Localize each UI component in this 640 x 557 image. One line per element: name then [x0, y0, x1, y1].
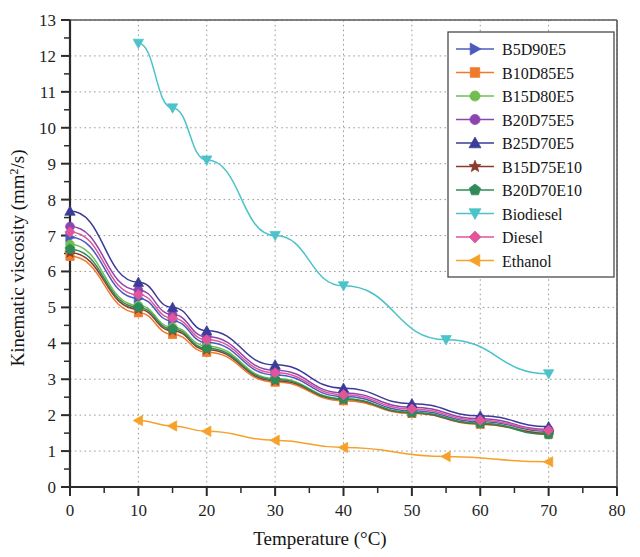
y-tick-label: 3 — [48, 370, 57, 389]
legend-item-label: Ethanol — [502, 253, 552, 270]
y-tick-label: 1 — [48, 442, 57, 461]
data-point-marker-triangle-up — [65, 206, 75, 215]
legend-item-label: B5D90E5 — [502, 41, 566, 58]
y-axis-title-tail: /s) — [7, 149, 29, 168]
data-point-marker-triangle-left — [167, 421, 176, 431]
legend-item-label: B10D85E5 — [502, 65, 574, 82]
y-tick-label: 6 — [48, 262, 57, 281]
y-axis-title-main: Kinematic viscosity (mm — [7, 174, 29, 366]
x-tick-label: 10 — [130, 501, 147, 520]
chart-legend: B5D90E5B10D85E5B15D80E5B20D75E5B25D70E5B… — [448, 32, 614, 277]
legend-item-label: B15D80E5 — [502, 88, 574, 105]
y-tick-label: 10 — [39, 119, 56, 138]
x-tick-label: 70 — [540, 501, 557, 520]
y-tick-label: 4 — [48, 334, 57, 353]
y-tick-label: 7 — [48, 227, 57, 246]
series-line — [70, 253, 549, 434]
data-point-marker-circle — [470, 91, 480, 101]
x-axis-title: Temperature (°C) — [253, 528, 386, 550]
x-tick-label: 80 — [609, 501, 626, 520]
x-tick-label: 50 — [403, 501, 420, 520]
x-tick-label: 0 — [66, 501, 75, 520]
legend-item-label: B15D75E10 — [502, 159, 582, 176]
y-tick-label: 8 — [48, 191, 57, 210]
y-tick-label: 11 — [40, 83, 56, 102]
legend-item-label: B20D70E10 — [502, 182, 582, 199]
legend-item-label: B25D70E5 — [502, 135, 574, 152]
series-line — [138, 421, 548, 462]
x-tick-label: 30 — [267, 501, 284, 520]
y-tick-label: 2 — [48, 406, 57, 425]
y-tick-label: 12 — [39, 47, 56, 66]
data-point-marker-triangle-left — [133, 415, 142, 425]
legend-item-label: Diesel — [502, 229, 543, 246]
x-tick-label: 20 — [198, 501, 215, 520]
data-point-marker-triangle-left — [441, 451, 450, 461]
y-tick-label: 13 — [39, 11, 56, 30]
kinematic-viscosity-line-chart: 01234567891011121301020304050607080 B5D9… — [0, 0, 640, 557]
y-tick-label: 9 — [48, 155, 57, 174]
data-point-marker-triangle-left — [202, 426, 211, 436]
data-point-marker-triangle-left — [543, 457, 552, 467]
x-tick-label: 40 — [335, 501, 352, 520]
figure-container: 01234567891011121301020304050607080 B5D9… — [0, 0, 640, 557]
data-point-marker-square — [470, 68, 480, 78]
legend-item-label: Biodiesel — [502, 206, 563, 223]
legend-item-label: B20D75E5 — [502, 112, 574, 129]
data-point-marker-circle — [470, 114, 480, 124]
y-axis-title: Kinematic viscosity (mm2/s) — [7, 149, 29, 366]
x-tick-label: 60 — [472, 501, 489, 520]
y-tick-label: 5 — [48, 298, 57, 317]
y-tick-label: 0 — [48, 478, 57, 497]
data-point-marker-triangle-left — [270, 435, 279, 445]
